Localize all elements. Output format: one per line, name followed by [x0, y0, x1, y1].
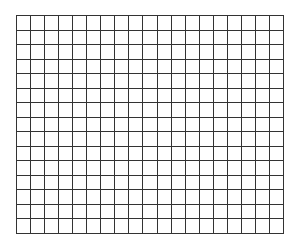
grid-diagram: [16, 15, 284, 234]
grid-lines: [16, 15, 284, 234]
